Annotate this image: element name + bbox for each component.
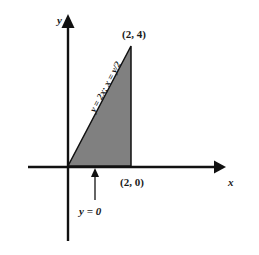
y-equals-zero-pointer-arrowhead [91,168,99,177]
figure-canvas: y x (2, 4) (2, 0) y = 2x; x = y/2 y = 0 [0,0,259,255]
y-axis-arrowhead [62,14,75,28]
y-axis-label: y [55,14,62,26]
lower-bound-label: y = 0 [77,205,102,217]
x-axis-arrowhead [214,161,226,174]
apex-point-label: (2, 4) [122,28,146,41]
math-figure: y x (2, 4) (2, 0) y = 2x; x = y/2 y = 0 [0,0,259,255]
x-axis-label: x [227,176,234,188]
base-point-label: (2, 0) [120,176,144,189]
